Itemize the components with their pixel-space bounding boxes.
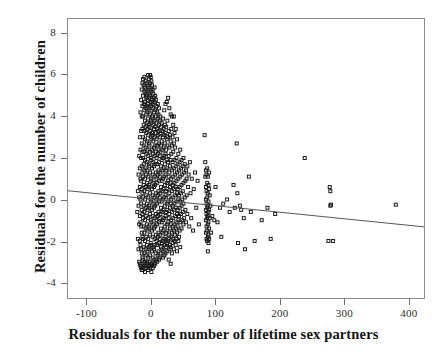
scatter-plot-figure: -4-202468 -1000100200300400 Residuals fo… <box>0 0 447 351</box>
data-point <box>167 258 170 261</box>
x-tick-mark <box>86 299 87 305</box>
data-point <box>158 256 161 259</box>
data-point <box>249 210 252 213</box>
data-point <box>177 235 180 238</box>
data-point <box>226 198 229 201</box>
data-point <box>152 140 155 143</box>
data-point <box>164 152 167 155</box>
data-point <box>171 136 174 139</box>
y-tick-label: 8 <box>50 27 56 38</box>
y-tick-label: 0 <box>50 194 56 205</box>
y-tick-mark <box>61 158 67 159</box>
data-point <box>206 250 209 253</box>
y-tick-mark <box>61 116 67 117</box>
data-point <box>143 219 146 222</box>
data-point <box>148 125 151 128</box>
x-axis-title: Residuals for the number of lifetime sex… <box>0 326 447 343</box>
data-point <box>142 163 145 166</box>
data-point <box>331 239 334 242</box>
data-point <box>266 206 269 209</box>
data-point <box>220 235 223 238</box>
x-tick-mark <box>344 299 345 305</box>
data-point <box>174 127 177 130</box>
data-point <box>184 208 187 211</box>
data-point <box>208 194 211 197</box>
data-point <box>149 76 152 79</box>
data-point <box>247 175 250 178</box>
regression-trendline <box>68 191 424 227</box>
data-point <box>160 121 163 124</box>
data-point <box>158 107 161 110</box>
data-point <box>253 239 256 242</box>
data-point <box>328 186 331 189</box>
data-point <box>164 194 167 197</box>
data-point <box>204 161 207 164</box>
data-point <box>183 217 186 220</box>
data-point <box>192 188 195 191</box>
data-point <box>154 98 157 101</box>
data-point <box>206 167 209 170</box>
data-point <box>174 244 177 247</box>
data-points-layer <box>136 74 397 274</box>
y-tick-mark <box>61 33 67 34</box>
data-point <box>164 235 167 238</box>
data-point <box>182 156 185 159</box>
x-tick-label: -100 <box>76 308 97 319</box>
data-point <box>187 173 190 176</box>
data-point <box>260 219 263 222</box>
y-axis-title: Residuals for the number of children <box>32 7 49 307</box>
data-point <box>165 125 168 128</box>
data-point <box>181 190 184 193</box>
data-point <box>208 171 211 174</box>
y-tick-mark <box>61 283 67 284</box>
data-point <box>143 231 146 234</box>
data-point <box>161 117 164 120</box>
data-point <box>147 237 150 240</box>
data-point <box>177 152 180 155</box>
data-point <box>186 165 189 168</box>
data-point <box>167 96 170 99</box>
data-point <box>269 237 272 240</box>
data-point <box>216 221 219 224</box>
data-point <box>179 246 182 249</box>
y-tick-label: 6 <box>50 68 56 79</box>
data-point <box>166 119 169 122</box>
y-tick-label: 2 <box>50 152 56 163</box>
data-point <box>164 173 167 176</box>
data-point <box>274 213 277 216</box>
data-point <box>188 225 191 228</box>
data-point <box>207 221 210 224</box>
data-point <box>152 248 155 251</box>
x-tick-label: 400 <box>400 308 417 319</box>
data-point <box>158 154 161 157</box>
data-point <box>163 163 166 166</box>
data-point <box>235 142 238 145</box>
data-point <box>139 111 142 114</box>
data-point <box>238 204 241 207</box>
data-point <box>150 80 153 83</box>
data-point <box>158 196 161 199</box>
data-point <box>329 190 332 193</box>
data-point <box>154 94 157 97</box>
data-point <box>190 217 193 220</box>
data-point <box>160 140 163 143</box>
data-point <box>177 239 180 242</box>
data-point <box>207 200 210 203</box>
data-point <box>236 192 239 195</box>
data-point <box>165 148 168 151</box>
data-point <box>211 215 214 218</box>
data-point <box>179 148 182 151</box>
data-point <box>188 161 191 164</box>
data-point <box>164 132 167 135</box>
data-point <box>163 109 166 112</box>
data-point <box>195 206 198 209</box>
data-point <box>148 144 151 147</box>
data-point <box>228 210 231 213</box>
data-point <box>164 215 167 218</box>
data-point <box>172 248 175 251</box>
data-point <box>158 217 161 220</box>
plot-area <box>67 18 425 299</box>
y-tick-mark <box>61 74 67 75</box>
data-point <box>194 171 197 174</box>
data-point <box>208 227 211 230</box>
